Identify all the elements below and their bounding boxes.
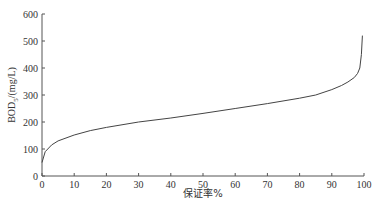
y-axis: 0100200300400500600 bbox=[23, 9, 45, 182]
y-tick-label: 500 bbox=[23, 36, 38, 47]
y-tick-label: 600 bbox=[23, 9, 38, 20]
y-axis-title: BOD5/(mg/L) bbox=[6, 67, 20, 123]
x-tick-label: 40 bbox=[166, 179, 176, 190]
y-tick-label: 200 bbox=[23, 117, 38, 128]
y-tick-label: 100 bbox=[23, 144, 38, 155]
y-tick-label: 300 bbox=[23, 90, 38, 101]
x-axis-title: 保证率% bbox=[183, 187, 223, 199]
x-tick-label: 60 bbox=[230, 179, 240, 190]
x-tick-label: 70 bbox=[262, 179, 272, 190]
x-tick-label: 20 bbox=[101, 179, 111, 190]
x-tick-label: 80 bbox=[295, 179, 305, 190]
y-tick-label: 400 bbox=[23, 63, 38, 74]
x-tick-label: 100 bbox=[357, 179, 372, 190]
y-tick-label: 0 bbox=[33, 171, 38, 182]
x-tick-label: 90 bbox=[327, 179, 337, 190]
x-tick-label: 0 bbox=[40, 179, 45, 190]
x-tick-label: 30 bbox=[134, 179, 144, 190]
bod-curve bbox=[42, 36, 362, 163]
x-tick-label: 10 bbox=[69, 179, 79, 190]
bod-line-chart: 0100200300400500600 01020304050607080901… bbox=[0, 0, 379, 214]
